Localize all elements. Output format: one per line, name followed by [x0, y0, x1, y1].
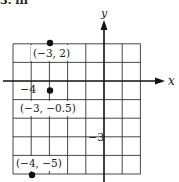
coordinate-plane: x y −4 −3 (−3, 2) (−3, −0.5) (−4, −5)	[0, 0, 179, 182]
point-marker	[47, 87, 53, 93]
point-marker	[47, 40, 53, 46]
point-label: (−3, 2)	[33, 47, 70, 59]
tick-label-y-neg3: −3	[88, 131, 104, 144]
point-label: (−4, −5)	[16, 157, 62, 169]
x-axis-label: x	[168, 74, 175, 88]
point-marker	[29, 172, 35, 178]
x-arrow-icon	[155, 78, 165, 85]
point-label: (−3, −0.5)	[20, 102, 76, 114]
points: (−3, 2) (−3, −0.5) (−4, −5)	[15, 40, 83, 178]
y-axis-label: y	[100, 7, 108, 20]
y-arrow-icon	[101, 20, 108, 30]
tick-label-x-neg4: −4	[20, 83, 36, 96]
